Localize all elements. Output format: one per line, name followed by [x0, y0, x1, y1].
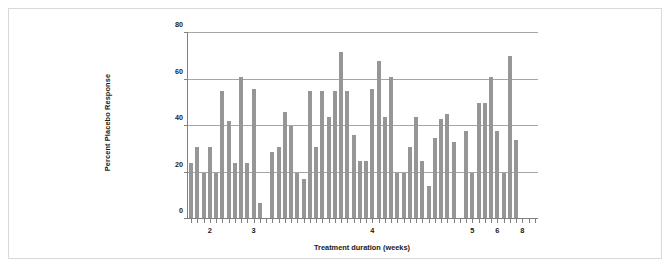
x-tick-mark: [341, 219, 342, 223]
x-tick-mark: [304, 219, 305, 223]
x-tick-mark: [354, 219, 355, 223]
bar: [195, 147, 199, 219]
bar: [245, 163, 249, 219]
x-tick-mark: [216, 219, 217, 223]
x-tick-label: 2: [208, 226, 212, 235]
bar: [495, 131, 499, 219]
bar: [277, 147, 281, 219]
x-tick-mark: [235, 219, 236, 223]
x-tick-mark: [316, 219, 317, 223]
bar: [270, 152, 274, 219]
bar: [345, 91, 349, 219]
bar: [333, 91, 337, 219]
bar: [408, 147, 412, 219]
x-tick-mark: [497, 219, 498, 223]
bar: [414, 117, 418, 219]
bar: [239, 77, 243, 219]
plot-area: 020406080 234568: [187, 33, 537, 219]
bar: [220, 91, 224, 219]
x-tick-mark: [516, 219, 517, 223]
bar: [314, 147, 318, 219]
x-tick-mark: [372, 219, 373, 223]
bar: [364, 161, 368, 219]
bar: [208, 147, 212, 219]
x-tick-mark: [272, 219, 273, 223]
bar: [258, 203, 262, 219]
x-tick-mark: [335, 219, 336, 223]
bar: [283, 112, 287, 219]
bar: [189, 163, 193, 219]
x-tick-label: 3: [252, 226, 256, 235]
bar: [233, 163, 237, 219]
x-tick-mark: [297, 219, 298, 223]
bar: [289, 126, 293, 219]
bar: [227, 121, 231, 219]
bar: [377, 61, 381, 219]
bar: [389, 77, 393, 219]
figure-frame: Percent Placebo Response 020406080 23456…: [8, 8, 662, 259]
x-tick-mark: [454, 219, 455, 223]
y-tick-label: 20: [175, 159, 183, 168]
bar: [439, 119, 443, 219]
x-tick-mark: [447, 219, 448, 223]
x-tick-mark: [522, 219, 523, 223]
x-tick-label: 8: [520, 226, 524, 235]
bar: [508, 56, 512, 219]
bar: [433, 138, 437, 219]
x-tick-mark: [197, 219, 198, 223]
x-tick-mark: [391, 219, 392, 223]
x-tick-mark: [397, 219, 398, 223]
x-tick-mark: [466, 219, 467, 223]
bar: [308, 91, 312, 219]
bar: [252, 89, 256, 219]
bar: [452, 142, 456, 219]
x-tick-mark: [379, 219, 380, 223]
x-tick-mark: [241, 219, 242, 223]
x-tick-mark: [422, 219, 423, 223]
bar: [327, 117, 331, 219]
x-tick-mark: [204, 219, 205, 223]
x-tick-mark: [254, 219, 255, 223]
x-tick-mark: [535, 219, 536, 223]
x-tick-mark: [404, 219, 405, 223]
x-tick-mark: [291, 219, 292, 223]
bar: [470, 173, 474, 220]
x-tick-mark: [360, 219, 361, 223]
bar: [489, 77, 493, 219]
x-tick-mark: [441, 219, 442, 223]
x-tick-mark: [485, 219, 486, 223]
x-tick-mark: [385, 219, 386, 223]
y-tick-label: 60: [175, 66, 183, 75]
x-tick-mark: [410, 219, 411, 223]
x-tick-mark: [347, 219, 348, 223]
x-tick-mark: [260, 219, 261, 223]
x-tick-mark: [279, 219, 280, 223]
bar: [395, 173, 399, 220]
x-tick-mark: [247, 219, 248, 223]
bar: [427, 186, 431, 219]
bar: [464, 131, 468, 219]
x-tick-label: 4: [370, 226, 374, 235]
x-tick-mark: [429, 219, 430, 223]
bar: [445, 114, 449, 219]
bar: [358, 161, 362, 219]
x-tick-label: 6: [495, 226, 499, 235]
x-tick-mark: [416, 219, 417, 223]
bar: [514, 140, 518, 219]
bar: [202, 173, 206, 220]
x-tick-mark: [191, 219, 192, 223]
x-tick-mark: [479, 219, 480, 223]
x-axis-title: Treatment duration (weeks): [187, 243, 537, 252]
bar: [295, 173, 299, 220]
bar: [420, 161, 424, 219]
x-tick-mark: [266, 219, 267, 223]
bar: [339, 52, 343, 219]
x-tick-mark: [491, 219, 492, 223]
x-tick-mark: [329, 219, 330, 223]
x-tick-mark: [285, 219, 286, 223]
x-tick-mark: [510, 219, 511, 223]
x-tick-mark: [322, 219, 323, 223]
bar: [214, 173, 218, 220]
x-tick-mark: [210, 219, 211, 223]
bar: [402, 173, 406, 220]
